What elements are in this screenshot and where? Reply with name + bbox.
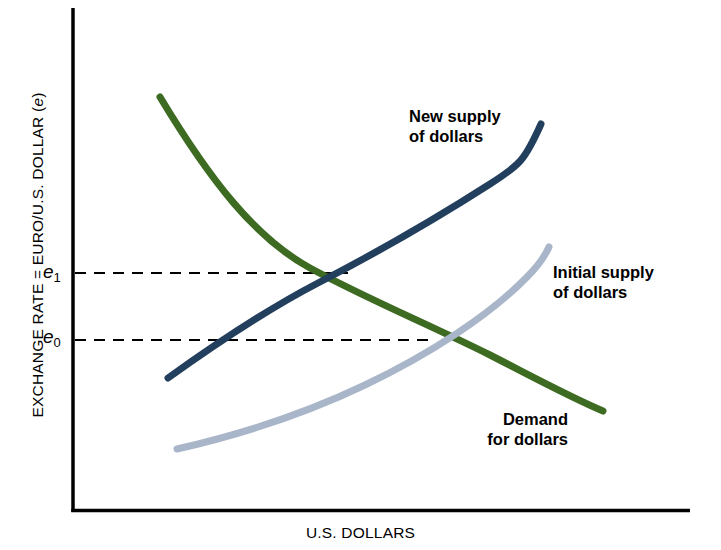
new-supply-label: New supply of dollars bbox=[409, 106, 501, 146]
y-axis-title-close: ) bbox=[29, 92, 46, 97]
demand-label: Demand for dollars bbox=[453, 409, 568, 449]
y-tick-e0: e0 bbox=[43, 326, 61, 348]
demand-curve bbox=[160, 97, 603, 411]
initial-supply-label: Initial supply of dollars bbox=[553, 262, 654, 302]
new-supply-curve bbox=[168, 124, 541, 378]
y-tick-e1-base: e bbox=[43, 261, 54, 282]
y-axis-title: EXCHANGE RATE = EURO/U.S. DOLLAR (e) bbox=[29, 45, 47, 465]
y-tick-e1: e1 bbox=[43, 261, 61, 283]
x-axis-title: U.S. DOLLARS bbox=[0, 524, 721, 542]
chart-figure: EXCHANGE RATE = EURO/U.S. DOLLAR (e) U.S… bbox=[0, 0, 721, 550]
y-tick-e0-base: e bbox=[43, 326, 54, 347]
y-tick-e1-subscript: 1 bbox=[54, 270, 61, 285]
y-axis-title-italic: e bbox=[29, 98, 46, 107]
y-tick-e0-subscript: 0 bbox=[54, 335, 61, 350]
